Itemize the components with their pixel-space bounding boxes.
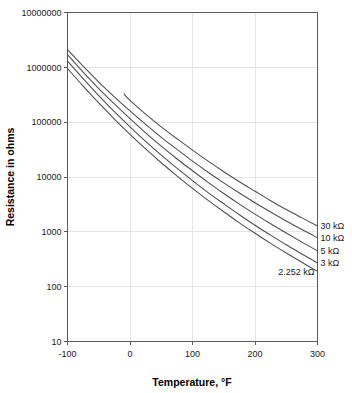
y-tick-label: 1000 (41, 227, 61, 237)
series-label-2: 5 kΩ (321, 246, 340, 256)
series-label-3: 3 kΩ (321, 258, 340, 268)
y-tick-label: 10 (51, 337, 61, 347)
x-tick-label: -100 (58, 349, 76, 359)
series-label-0: 30 kΩ (321, 221, 345, 231)
y-tick-label: 100000 (31, 117, 61, 127)
series-label-1: 10 kΩ (321, 233, 345, 243)
x-axis-title: Temperature, °F (152, 376, 232, 388)
y-tick-label: 100 (46, 282, 61, 292)
x-tick-label: 100 (185, 349, 200, 359)
series-label-4: 2.252 kΩ (278, 267, 315, 277)
y-tick-label: 1000000 (26, 63, 61, 73)
resistance-vs-temperature-chart: 10100100010000100000100000010000000 -100… (0, 0, 352, 393)
x-tick-label: 300 (310, 349, 325, 359)
x-tick-label: 200 (247, 349, 262, 359)
chart-background (0, 0, 352, 393)
x-tick-label: 0 (127, 349, 132, 359)
y-axis-title: Resistance in ohms (4, 128, 16, 227)
chart-container: 10100100010000100000100000010000000 -100… (0, 0, 352, 393)
y-tick-label: 10000 (36, 172, 61, 182)
y-tick-label: 10000000 (21, 8, 61, 18)
